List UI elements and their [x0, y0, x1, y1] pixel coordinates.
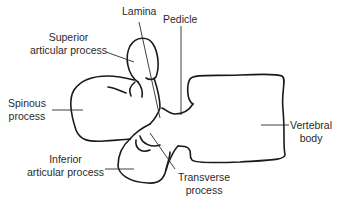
lamina-outline — [150, 78, 160, 124]
spinous-process-outline — [71, 76, 134, 141]
pedicle-text: Pedicle — [163, 13, 197, 26]
vertebral-body-outline — [178, 74, 285, 162]
superior-articular-process-outline — [127, 38, 158, 82]
inferior-articular-process-outline — [118, 139, 170, 183]
superior-articular-inner — [138, 82, 142, 97]
lamina-leader — [139, 22, 160, 118]
vertebra-diagram: Lamina Pedicle Superior articular proces… — [0, 0, 342, 203]
superior-articular-text-2: articular process — [30, 44, 107, 57]
lamina-text: Lamina — [122, 5, 156, 18]
vertebral-body-text-2: body — [290, 132, 332, 145]
transverse-process-text-2: process — [178, 184, 230, 197]
inferior-articular-process-label: Inferior articular process — [27, 153, 104, 178]
superior-articular-leader — [106, 52, 134, 62]
superior-articular-text-1: Superior — [30, 31, 107, 44]
vertebral-body-label: Vertebral body — [290, 119, 332, 144]
spinous-process-text-1: Spinous — [8, 97, 46, 110]
pedicle-outline — [162, 104, 193, 114]
vertebral-body-text-1: Vertebral — [290, 119, 332, 132]
spinous-process-text-2: process — [8, 110, 46, 123]
inferior-articular-text-2: articular process — [27, 166, 104, 179]
spinous-process-label: Spinous process — [8, 97, 46, 122]
transverse-process-leader — [150, 133, 175, 169]
pedicle-label: Pedicle — [163, 13, 197, 26]
superior-articular-process-label: Superior articular process — [30, 31, 107, 56]
inferior-articular-text-1: Inferior — [27, 153, 104, 166]
transverse-process-text-1: Transverse — [178, 171, 230, 184]
lamina-label: Lamina — [122, 5, 156, 18]
transverse-process-label: Transverse process — [178, 171, 230, 196]
